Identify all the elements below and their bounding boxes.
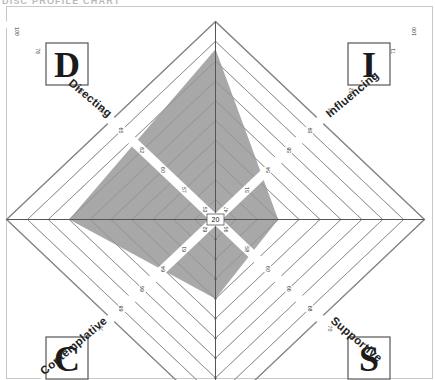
tick-label-D-3: 60 xyxy=(160,167,166,173)
quadrant-name-D: Directing xyxy=(66,77,114,120)
tick-label-I-4: 58 xyxy=(286,147,292,153)
tick-label-I-2: 51 xyxy=(244,187,250,193)
tick-label-D-5: 65 xyxy=(118,128,124,134)
tick-label-S-2: 58 xyxy=(244,246,250,252)
tick-label-I-10: 100 xyxy=(411,27,417,36)
tick-label-C-2: 61 xyxy=(181,246,187,252)
tick-label-D-4: 62 xyxy=(139,147,145,153)
tick-label-D-1: 53 xyxy=(202,207,208,213)
tick-label-D-9: 76 xyxy=(35,48,41,54)
tick-label-C-1: 62 xyxy=(202,226,208,232)
axis-tick-5 xyxy=(214,317,216,319)
tick-label-C-3: 64 xyxy=(160,266,166,272)
axis-tick-2 xyxy=(214,258,216,260)
tick-label-I-1: 47 xyxy=(223,207,229,213)
tick-label-C-5: 68 xyxy=(118,306,124,312)
axis-tick-4 xyxy=(214,298,216,300)
tick-label-S-5: 68 xyxy=(307,306,313,312)
center-value: 20 xyxy=(207,214,224,225)
axis-tick-6 xyxy=(214,337,216,339)
tick-label-S-4: 66 xyxy=(286,286,292,292)
center-value-label: 20 xyxy=(212,216,220,223)
tick-label-D-2: 57 xyxy=(181,187,187,193)
tick-label-D-10: 100 xyxy=(14,27,20,36)
tick-label-I-5: 59 xyxy=(307,127,313,133)
tick-label-I-3: 54 xyxy=(265,167,271,173)
chart-page: DISC PROFILE CHART 535760626567697276100… xyxy=(0,0,435,380)
axis-tick-3 xyxy=(214,278,216,280)
disc-radar-chart: 5357606265676972761004751545859616263711… xyxy=(0,0,435,380)
tick-label-I-9: 71 xyxy=(390,48,396,54)
tick-label-C-4: 66 xyxy=(139,286,145,292)
axis-tick-7 xyxy=(214,357,216,359)
tick-label-S-1: 56 xyxy=(223,227,229,233)
axis-tick-1 xyxy=(214,238,216,240)
tick-label-S-3: 60 xyxy=(265,266,271,272)
axis-tick-8 xyxy=(214,377,216,379)
quadrant-D: D xyxy=(46,43,88,85)
